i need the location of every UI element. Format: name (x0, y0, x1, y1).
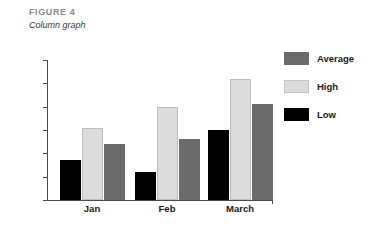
bar-groups (48, 60, 273, 200)
chart-legend: AverageHighLow (284, 50, 354, 134)
bar-group (208, 60, 274, 200)
legend-swatch (284, 52, 309, 65)
y-axis-tick (43, 130, 47, 131)
bar (230, 79, 251, 200)
bar (157, 107, 178, 200)
y-axis-tick (43, 153, 47, 154)
legend-label: Low (317, 109, 336, 120)
y-axis-tick (43, 60, 47, 61)
bar (135, 172, 156, 200)
figure-number: FIGURE 4 (29, 6, 86, 18)
bar-group (135, 60, 201, 200)
bar (82, 128, 103, 200)
bar (208, 130, 229, 200)
x-axis-label: Feb (132, 203, 202, 214)
x-axis-labels: JanFebMarch (47, 203, 273, 219)
x-axis-line (47, 200, 273, 201)
bar (60, 160, 81, 200)
legend-item: High (284, 78, 354, 94)
y-axis-tick (43, 83, 47, 84)
legend-item: Average (284, 50, 354, 66)
legend-label: Average (317, 53, 354, 64)
legend-label: High (317, 81, 338, 92)
x-axis-label: March (205, 203, 275, 214)
legend-swatch (284, 80, 309, 93)
y-axis-tick (43, 177, 47, 178)
legend-swatch (284, 108, 309, 121)
x-axis-label: Jan (57, 203, 127, 214)
bar (104, 144, 125, 200)
bar (252, 104, 273, 200)
chart-plot-area (47, 60, 272, 200)
y-axis-tick (43, 200, 47, 201)
legend-item: Low (284, 106, 354, 122)
figure-caption: Column graph (29, 19, 86, 32)
figure-heading: FIGURE 4 Column graph (29, 6, 86, 32)
bar-group (60, 60, 126, 200)
y-axis-tick (43, 107, 47, 108)
bar (179, 139, 200, 200)
